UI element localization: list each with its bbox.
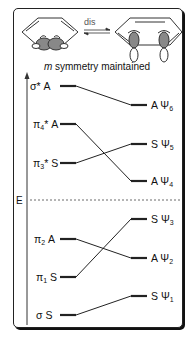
level-label-psi4: A Ψ4 xyxy=(151,175,173,191)
level-label-psi5: S Ψ5 xyxy=(151,138,174,154)
symmetry-caption: m symmetry maintained xyxy=(0,61,194,72)
energy-axis-label: E xyxy=(16,195,23,206)
symmetry-label: * A xyxy=(44,118,58,130)
level-label-psi6: A Ψ6 xyxy=(151,99,173,115)
orbital-index: 3 xyxy=(170,219,174,226)
symmetry-label: A Ψ xyxy=(151,99,169,111)
orbital-index: 4 xyxy=(169,181,173,188)
symmetry-label: S Ψ xyxy=(151,138,170,150)
symmetry-label: S Ψ xyxy=(151,213,170,225)
orbital-name: σ xyxy=(36,309,45,321)
level-label-pi4-star: π4* A xyxy=(33,118,58,134)
level-label-psi1: S Ψ1 xyxy=(151,290,174,306)
equilibrium-arrows-icon xyxy=(84,28,110,35)
symmetry-caption-text: symmetry maintained xyxy=(52,61,150,72)
level-label-sigma-star: σ* A xyxy=(30,80,51,92)
orbital-name: σ* xyxy=(30,80,43,92)
symmetry-label: S xyxy=(45,309,52,321)
orbital-index: 6 xyxy=(169,105,173,112)
level-label-psi3: S Ψ3 xyxy=(151,213,174,229)
correlation-lines xyxy=(60,86,147,315)
symmetry-label: A xyxy=(43,80,50,92)
symmetry-label: A Ψ xyxy=(151,252,169,264)
orbital-index: 2 xyxy=(169,258,173,265)
symmetry-symbol: m xyxy=(44,61,52,72)
reactant-molecule-icon xyxy=(22,18,78,50)
level-label-psi2: A Ψ2 xyxy=(151,252,173,268)
orbital-index: 5 xyxy=(170,144,174,151)
symmetry-label: S xyxy=(47,271,57,283)
energy-axis xyxy=(25,72,30,325)
symmetry-label: A Ψ xyxy=(151,175,169,187)
level-label-sigma: σ S xyxy=(36,309,52,321)
symmetry-label: * S xyxy=(44,157,58,169)
reaction-label: dis xyxy=(84,17,96,27)
level-label-pi1: π1 S xyxy=(36,271,57,287)
level-label-pi3-star: π3* S xyxy=(33,157,58,173)
level-label-pi2: π2 A xyxy=(34,233,55,249)
orbital-index: 1 xyxy=(170,296,174,303)
symmetry-label: A xyxy=(45,233,55,245)
product-molecule-icon xyxy=(115,18,182,62)
symmetry-label: S Ψ xyxy=(151,290,170,302)
